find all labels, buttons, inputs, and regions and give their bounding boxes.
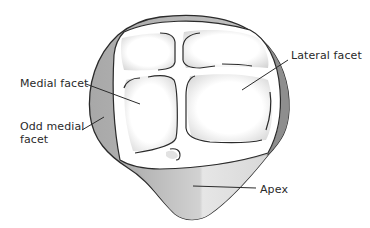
facet-medial xyxy=(124,76,176,152)
facet-lateral xyxy=(187,74,272,141)
label-odd-medial-facet-line1: Odd medial xyxy=(20,120,84,133)
label-apex: Apex xyxy=(260,183,288,196)
label-medial-facet: Medial facet xyxy=(20,77,89,90)
facet-superior-medial xyxy=(121,34,175,71)
label-lateral-facet: Lateral facet xyxy=(291,49,362,62)
label-odd-medial-facet: Odd medial facet xyxy=(20,120,84,146)
patella-illustration xyxy=(0,0,370,228)
patella-diagram: Medial facet Lateral facet Odd medial fa… xyxy=(0,0,370,228)
label-odd-medial-facet-line2: facet xyxy=(20,133,84,146)
